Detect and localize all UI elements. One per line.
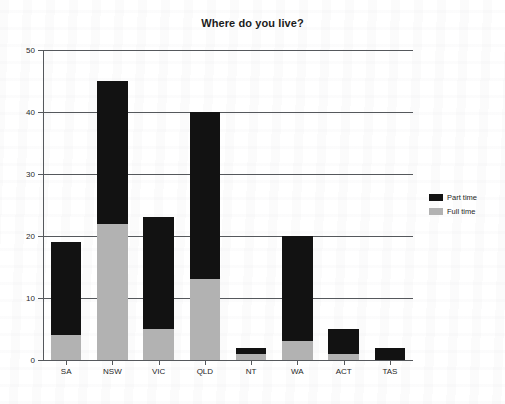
- plot-area: [43, 50, 413, 360]
- x-tick-label-tas: TAS: [382, 367, 397, 376]
- x-tick-mark: [112, 361, 113, 365]
- legend-item-full-time[interactable]: Full time: [429, 206, 477, 217]
- chart-legend: Part timeFull time: [429, 192, 477, 220]
- legend-item-part-time[interactable]: Part time: [429, 192, 477, 203]
- bar-stack-wa[interactable]: [282, 50, 313, 360]
- y-tick-mark: [38, 360, 43, 361]
- x-tick-label-wa: WA: [291, 367, 304, 376]
- legend-label: Full time: [447, 207, 475, 216]
- x-tick-mark: [297, 361, 298, 365]
- x-tick-label-act: ACT: [336, 367, 352, 376]
- bar-segment-sa-full-time[interactable]: [51, 335, 82, 360]
- y-tick-label: 10: [5, 294, 35, 303]
- y-tick-label: 50: [5, 46, 35, 55]
- bar-segment-act-full-time[interactable]: [328, 354, 359, 360]
- x-tick-mark: [390, 361, 391, 365]
- bar-stack-tas[interactable]: [375, 50, 406, 360]
- legend-swatch-icon: [429, 208, 443, 215]
- x-axis-line: [43, 360, 413, 361]
- x-tick-mark: [344, 361, 345, 365]
- bar-segment-wa-full-time[interactable]: [282, 341, 313, 360]
- bar-segment-act-part-time[interactable]: [328, 329, 359, 354]
- bar-segment-wa-part-time[interactable]: [282, 236, 313, 341]
- bar-segment-qld-part-time[interactable]: [190, 112, 221, 279]
- bar-stack-vic[interactable]: [143, 50, 174, 360]
- x-tick-label-sa: SA: [61, 367, 72, 376]
- bar-segment-nt-part-time[interactable]: [236, 348, 267, 354]
- bar-segment-nsw-full-time[interactable]: [97, 224, 128, 360]
- x-tick-mark: [66, 361, 67, 365]
- bar-stack-nsw[interactable]: [97, 50, 128, 360]
- x-tick-label-nt: NT: [246, 367, 257, 376]
- y-tick-label: 40: [5, 108, 35, 117]
- bar-segment-qld-full-time[interactable]: [190, 279, 221, 360]
- x-tick-mark: [159, 361, 160, 365]
- bar-segment-nsw-part-time[interactable]: [97, 81, 128, 224]
- bar-stack-sa[interactable]: [51, 50, 82, 360]
- bar-chart: Where do you live? 01020304050 SANSWVICQ…: [0, 0, 505, 404]
- legend-label: Part time: [447, 193, 477, 202]
- x-tick-mark: [251, 361, 252, 365]
- x-tick-mark: [205, 361, 206, 365]
- y-tick-label: 30: [5, 170, 35, 179]
- bar-segment-tas-part-time[interactable]: [375, 348, 406, 360]
- bar-stack-act[interactable]: [328, 50, 359, 360]
- bar-segment-vic-part-time[interactable]: [143, 217, 174, 329]
- bar-stack-nt[interactable]: [236, 50, 267, 360]
- bar-segment-nt-full-time[interactable]: [236, 354, 267, 360]
- x-tick-label-qld: QLD: [197, 367, 213, 376]
- chart-title: Where do you live?: [0, 17, 505, 29]
- bar-stack-qld[interactable]: [190, 50, 221, 360]
- legend-swatch-icon: [429, 194, 443, 201]
- y-tick-label: 0: [5, 356, 35, 365]
- y-tick-label: 20: [5, 232, 35, 241]
- bar-segment-sa-part-time[interactable]: [51, 242, 82, 335]
- x-tick-label-vic: VIC: [152, 367, 165, 376]
- bar-segment-vic-full-time[interactable]: [143, 329, 174, 360]
- x-tick-label-nsw: NSW: [103, 367, 122, 376]
